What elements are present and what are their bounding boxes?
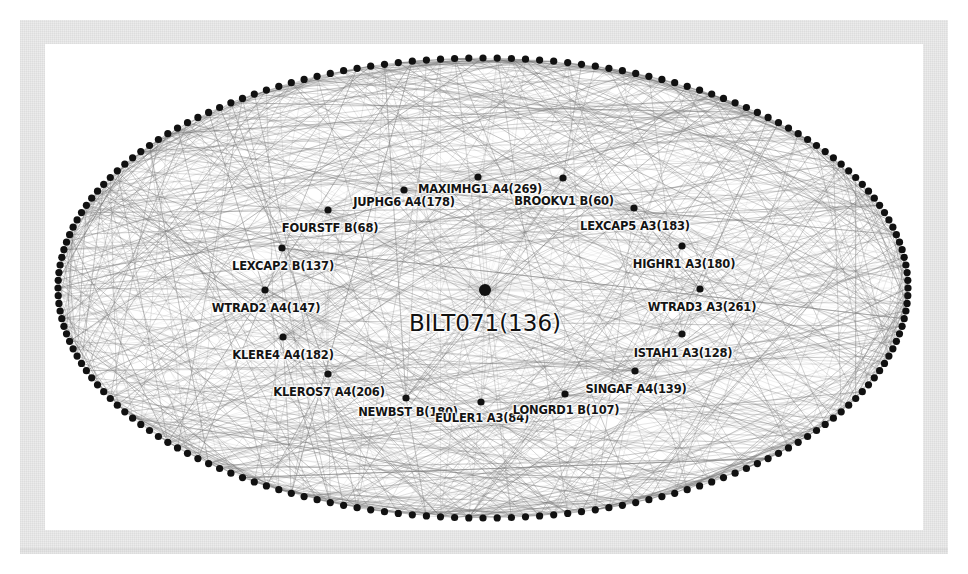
hub-node-label-bilt071: BILT071(136) bbox=[409, 310, 561, 336]
node-label-fourstf: FOURSTF B(68) bbox=[282, 221, 379, 235]
node-label-lexcap5: LEXCAP5 A3(183) bbox=[580, 219, 690, 233]
node-label-wtrad2: WTRAD2 A4(147) bbox=[212, 301, 320, 315]
node-label-wtrad3: WTRAD3 A3(261) bbox=[648, 300, 756, 314]
node-label-lexcap2: LEXCAP2 B(137) bbox=[232, 259, 334, 273]
node-label-longrd1: LONGRD1 B(107) bbox=[513, 403, 620, 417]
node-label-juphg6: JUPHG6 A4(178) bbox=[353, 195, 455, 209]
network-graph-screenshot: JUPHG6 A4(178)MAXIMHG1 A4(269)BROOKV1 B(… bbox=[0, 0, 968, 574]
node-label-brookv1: BROOKV1 B(60) bbox=[514, 194, 614, 208]
node-label-istah1: ISTAH1 A3(128) bbox=[634, 346, 733, 360]
node-label-highr1: HIGHR1 A3(180) bbox=[633, 257, 735, 271]
node-label-kleros7: KLEROS7 A4(206) bbox=[273, 385, 384, 399]
node-label-klere4: KLERE4 A4(182) bbox=[232, 348, 333, 362]
node-label-singaf: SINGAF A4(139) bbox=[585, 382, 686, 396]
network-graph-svg bbox=[0, 0, 968, 574]
